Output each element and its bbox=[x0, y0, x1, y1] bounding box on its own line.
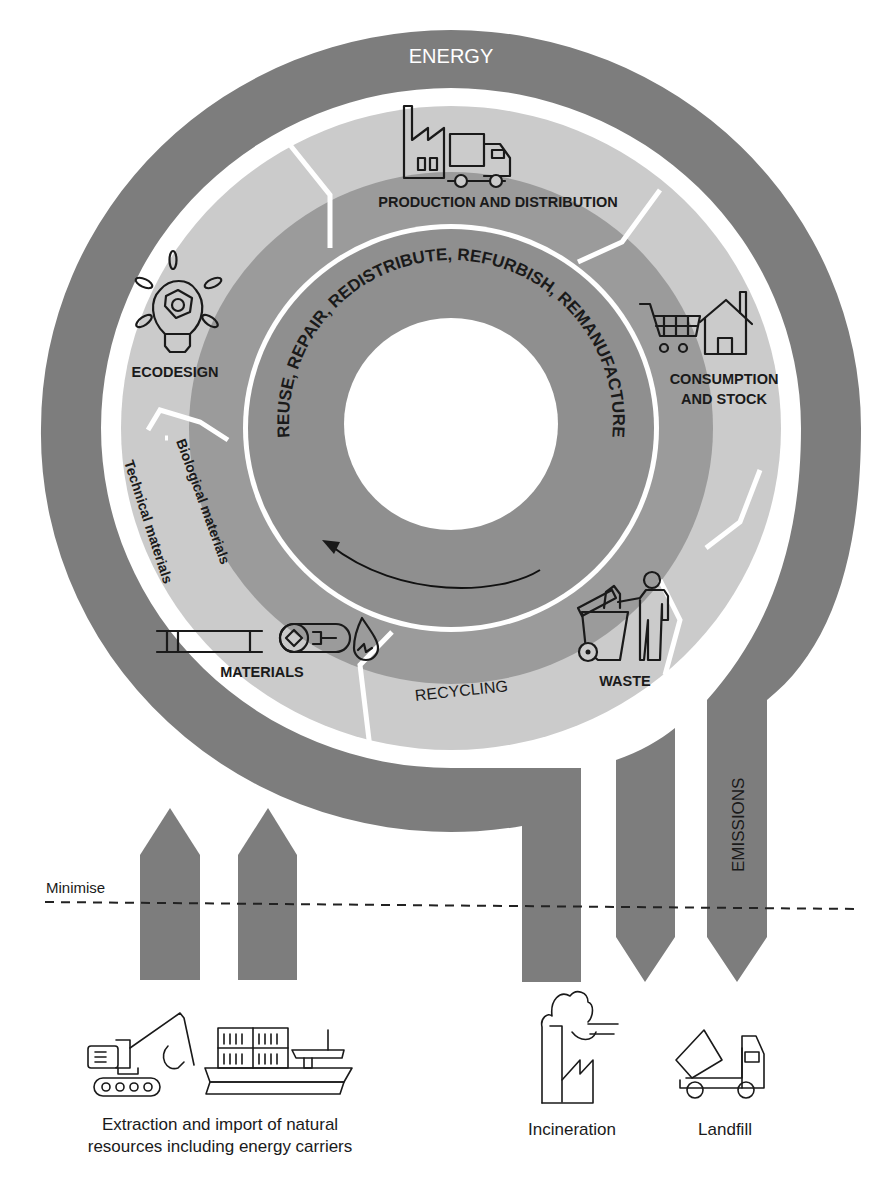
consumption-label-line1: CONSUMPTION bbox=[670, 371, 779, 387]
minimise-label: Minimise bbox=[46, 879, 105, 896]
extraction-label-line1: Extraction and import of natural bbox=[102, 1115, 338, 1134]
waste-label: WASTE bbox=[599, 673, 651, 689]
production-label: PRODUCTION AND DISTRIBUTION bbox=[378, 194, 618, 210]
incineration-icon bbox=[542, 992, 618, 1103]
landfill-truck-icon bbox=[676, 1030, 764, 1098]
input-arrows bbox=[140, 808, 297, 980]
center-hole bbox=[344, 318, 558, 530]
ecodesign-label: ECODESIGN bbox=[131, 364, 218, 380]
cargo-ship-icon bbox=[205, 1028, 352, 1094]
energy-label: ENERGY bbox=[409, 45, 493, 67]
consumption-label-line2: AND STOCK bbox=[681, 391, 767, 407]
landfill-label: Landfill bbox=[698, 1120, 752, 1139]
circular-economy-diagram: ENERGY REUSE, REPAIR, REDISTRIBUTE, REFU… bbox=[0, 0, 884, 1192]
emissions-label: EMISSIONS bbox=[729, 778, 748, 872]
import-arrow bbox=[238, 808, 297, 980]
excavator-icon bbox=[88, 1013, 194, 1096]
extraction-arrow bbox=[140, 808, 200, 980]
materials-label: MATERIALS bbox=[220, 664, 304, 680]
incineration-label: Incineration bbox=[528, 1120, 616, 1139]
extraction-label-line2: resources including energy carriers bbox=[88, 1137, 353, 1156]
